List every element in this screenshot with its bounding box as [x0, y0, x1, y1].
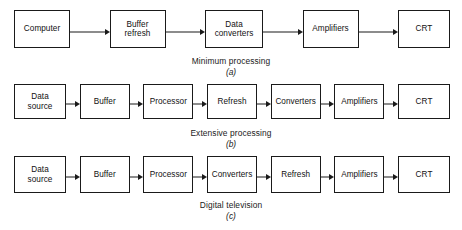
signal-chain-a: Computer Bufferrefresh Dataconverters — [14, 10, 450, 54]
block-label: Refresh — [218, 97, 247, 106]
block-label-line2: refresh — [125, 29, 151, 38]
block-label: CRT — [416, 97, 433, 106]
block-label: Dataconverters — [215, 20, 254, 38]
arrow-head-icon — [75, 174, 80, 180]
arrow-connector — [70, 28, 110, 37]
block-label: CRT — [416, 24, 433, 33]
diagram-row-a: Computer Bufferrefresh Dataconverters — [0, 10, 462, 54]
caption-title: Digital television — [0, 200, 462, 210]
block-refresh: Refresh — [207, 84, 257, 119]
block-label: Processor — [150, 170, 187, 179]
caption-b: Extensive processing (b) — [0, 128, 462, 149]
block-label: Amplifiers — [341, 170, 377, 179]
arrow-shaft — [70, 32, 106, 33]
block-buffer: Buffer — [80, 156, 130, 193]
arrow-head-icon — [393, 174, 398, 180]
arrow-head-icon — [298, 29, 303, 35]
block-label: Converters — [212, 170, 253, 179]
caption-letter: (c) — [0, 211, 462, 221]
arrow-head-icon — [266, 174, 271, 180]
block-amplifiers: Amplifiers — [334, 156, 384, 193]
signal-chain-b: Datasource Buffer Processor Refr — [14, 84, 450, 124]
arrow-connector — [193, 100, 207, 109]
caption-letter: (b) — [0, 139, 462, 149]
block-label-line1: Data — [31, 165, 49, 174]
arrow-connector — [257, 100, 271, 109]
arrow-connector — [359, 28, 399, 37]
arrow-connector — [130, 100, 144, 109]
block-label: Converters — [275, 97, 316, 106]
arrow-head-icon — [202, 174, 207, 180]
block-label: Datasource — [28, 92, 53, 110]
block-label: Bufferrefresh — [125, 20, 151, 38]
arrow-connector — [66, 173, 80, 182]
block-label: Datasource — [28, 165, 53, 183]
arrow-shaft — [166, 32, 202, 33]
arrow-connector — [257, 173, 271, 182]
arrow-connector — [166, 28, 206, 37]
block-label: Amplifiers — [312, 24, 348, 33]
block-amplifiers: Amplifiers — [334, 84, 384, 119]
arrow-connector — [321, 173, 335, 182]
arrow-shaft — [359, 32, 395, 33]
block-label-line1: Data — [225, 20, 243, 29]
caption-c: Digital television (c) — [0, 200, 462, 221]
block-label: Processor — [150, 97, 187, 106]
block-processor: Processor — [143, 84, 193, 119]
arrow-connector — [66, 100, 80, 109]
block-buffer: Buffer — [80, 84, 130, 119]
arrow-connector — [384, 173, 398, 182]
caption-title: Extensive processing — [0, 128, 462, 138]
block-buffer-refresh: Bufferrefresh — [110, 10, 166, 48]
arrow-head-icon — [138, 101, 143, 107]
block-label: Buffer — [94, 97, 116, 106]
arrow-head-icon — [200, 29, 205, 35]
arrow-head-icon — [105, 29, 110, 35]
block-crt: CRT — [398, 10, 450, 48]
block-label: Amplifiers — [341, 97, 377, 106]
caption-letter: (a) — [0, 67, 462, 77]
block-amplifiers: Amplifiers — [303, 10, 359, 48]
caption-a: Minimum processing (a) — [0, 56, 462, 77]
block-data-source: Datasource — [14, 156, 66, 193]
arrow-head-icon — [138, 174, 143, 180]
block-label: Buffer — [94, 170, 116, 179]
diagram-row-c: Datasource Buffer Processor Conv — [0, 156, 462, 198]
arrow-connector — [321, 100, 335, 109]
signal-chain-c: Datasource Buffer Processor Conv — [14, 156, 450, 198]
block-label-line2: source — [28, 175, 53, 184]
arrow-connector — [384, 100, 398, 109]
arrow-connector — [130, 173, 144, 182]
arrow-head-icon — [393, 29, 398, 35]
block-crt: CRT — [398, 84, 450, 119]
block-label: Computer — [24, 24, 60, 33]
arrow-head-icon — [393, 101, 398, 107]
arrow-connector — [263, 28, 303, 37]
arrow-head-icon — [75, 101, 80, 107]
arrow-connector — [193, 173, 207, 182]
block-label-line1: Buffer — [127, 20, 149, 29]
arrow-head-icon — [329, 101, 334, 107]
block-converters: Converters — [271, 84, 321, 119]
block-data-converters: Dataconverters — [205, 10, 263, 48]
block-converters: Converters — [207, 156, 257, 193]
arrow-head-icon — [202, 101, 207, 107]
block-label: Refresh — [281, 170, 310, 179]
block-label-line2: source — [28, 102, 53, 111]
block-label-line2: converters — [215, 29, 254, 38]
block-crt: CRT — [398, 156, 450, 193]
arrow-shaft — [263, 32, 299, 33]
block-label: CRT — [416, 170, 433, 179]
block-computer: Computer — [14, 10, 70, 48]
arrow-head-icon — [329, 174, 334, 180]
block-refresh: Refresh — [271, 156, 321, 193]
block-data-source: Datasource — [14, 84, 66, 119]
block-label-line1: Data — [31, 92, 49, 101]
block-diagram-figure: Computer Bufferrefresh Dataconverters — [0, 0, 462, 230]
block-processor: Processor — [143, 156, 193, 193]
caption-title: Minimum processing — [0, 56, 462, 66]
diagram-row-b: Datasource Buffer Processor Refr — [0, 84, 462, 124]
arrow-head-icon — [266, 101, 271, 107]
